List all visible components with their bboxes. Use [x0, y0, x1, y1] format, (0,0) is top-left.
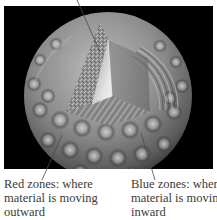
- blue-zones-label-line-2: material is moving: [131, 191, 217, 205]
- red-zones-label-line-3: outward: [4, 205, 98, 219]
- diagram-figure: Red zones: where material is moving outw…: [0, 0, 217, 220]
- blue-zones-label-line-3: inward: [131, 205, 217, 219]
- red-zones-label-line-2: material is moving: [4, 191, 98, 205]
- blue-zones-label: Blue zones: where material is moving inw…: [131, 177, 217, 219]
- red-zones-label: Red zones: where material is moving outw…: [4, 177, 98, 219]
- blue-zones-label-line-1: Blue zones: where: [131, 177, 217, 191]
- red-zones-label-line-1: Red zones: where: [4, 177, 98, 191]
